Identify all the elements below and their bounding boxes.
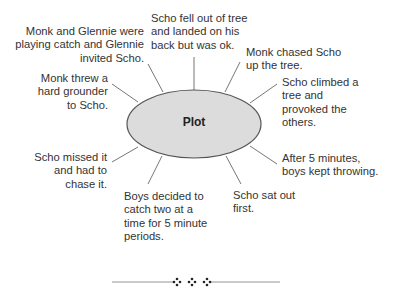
center-label: Plot	[164, 115, 224, 129]
spoke-bottom-right	[226, 156, 241, 184]
event-top: Scho fell out of tree and landed on his …	[151, 12, 247, 52]
spoke-top-left	[148, 64, 163, 92]
event-right-upper: Scho climbed a tree and provoked the oth…	[282, 76, 359, 130]
event-left-lower: Scho missed it and had to chase it.	[34, 151, 107, 191]
spoke-bottom-left	[148, 156, 162, 184]
spoke-right-lower	[250, 146, 277, 164]
spoke-left-lower	[112, 147, 138, 162]
spoke-top-right	[225, 62, 240, 92]
event-top-left: Monk and Glennie were playing catch and …	[15, 25, 144, 65]
spoke-right-upper	[250, 84, 277, 103]
event-left-upper: Monk threw a hard grounder to Scho.	[38, 72, 108, 112]
event-bottom-right: Scho sat out first.	[233, 189, 295, 216]
event-bottom-left: Boys decided to catch two at a time for …	[124, 190, 207, 244]
spoke-left-upper	[112, 84, 138, 102]
event-right-lower: After 5 minutes, boys kept throwing.	[282, 152, 378, 179]
divider-ornament-icon	[173, 278, 212, 287]
event-top-right: Monk chased Scho up the tree.	[246, 46, 341, 73]
